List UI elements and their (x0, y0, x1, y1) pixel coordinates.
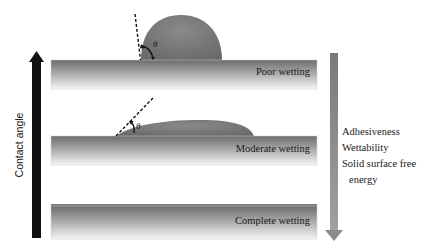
property-wettability: Wettability (342, 140, 388, 157)
properties-arrow (325, 53, 343, 241)
contact-angle-label: Contact angle (13, 110, 25, 180)
poor-wetting-label: Poor wetting (256, 66, 310, 77)
contact-angle-arrow (29, 51, 44, 238)
moderate-wetting-label: Moderate wetting (236, 143, 310, 154)
droplet-poor (141, 15, 222, 60)
property-surface-free-energy: Solid surface free (342, 156, 416, 173)
property-surface-free-energy-cont: energy (349, 172, 377, 189)
theta-poor: θ (153, 39, 158, 49)
theta-moderate: θ (136, 121, 141, 131)
wetting-diagram: θ θ Contact angle Poor wetting Moderate … (0, 0, 430, 252)
plate-moderate-wetting: θ (51, 98, 317, 165)
property-adhesiveness: Adhesiveness (342, 124, 400, 141)
plate-poor-wetting: θ (51, 14, 317, 89)
complete-wetting-label: Complete wetting (235, 215, 310, 226)
